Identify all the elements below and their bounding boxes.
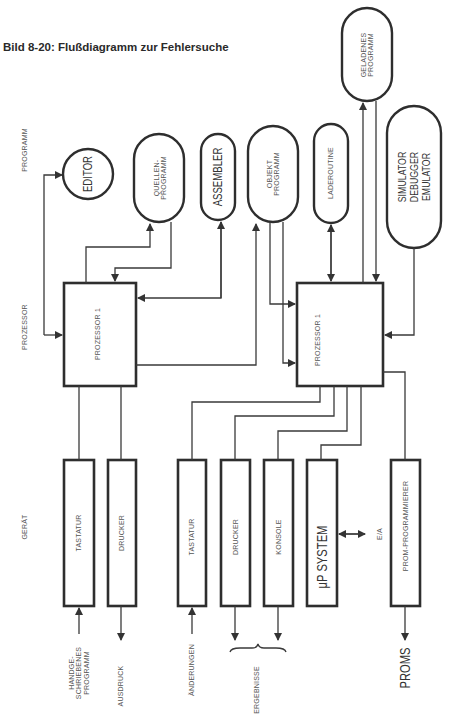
flow-diagram	[0, 0, 449, 716]
prozessor-right-label: PROZESSOR 1	[314, 314, 321, 366]
editor-label: EDITOR	[82, 156, 95, 192]
ergebnisse-label: ERGEBNISSE	[253, 666, 260, 714]
ergebnisse-brace	[230, 644, 286, 652]
objekt-programm-label: OBJEKT PROGRAMM	[266, 152, 281, 196]
level-label-processor: PROZESSOR	[21, 304, 28, 350]
drucker-1-label: DRUCKER	[118, 515, 125, 551]
geladenes-programm-label: GELADENES PROGRAMM	[360, 33, 375, 78]
prozessor-left-label: PROZESSOR 1	[94, 308, 101, 360]
handgeschriebenes-programm-label: HANDGE- SCHRIEBENES PROGRAMM	[68, 647, 90, 699]
tastatur-2-label: TASTATUR	[188, 519, 195, 556]
prozessor-right-box	[297, 283, 383, 386]
prom-programmierer-label: PROM-PROGRAMMIERER	[402, 481, 409, 571]
konsole-label: KONSOLE	[275, 519, 282, 554]
ea-label: E/A	[376, 528, 383, 540]
level-label-program: PROGRAMM	[21, 128, 28, 172]
proms-label: PROMS	[398, 647, 413, 688]
simulator-label: SIMULATOR DEBUGGER EMULATOR	[396, 152, 432, 203]
assembler-label: ASSEMBLER	[212, 148, 225, 207]
aenderungen-label: ÄNDERUNGEN	[188, 644, 195, 696]
quellen-programm-label: QUELLEN- PROGRAMM	[153, 156, 168, 200]
tastatur-1-label: TASTATUR	[75, 515, 82, 552]
ausdruck-label: AUSDRUCK	[117, 666, 124, 707]
drucker-2-label: DRUCKER	[232, 519, 239, 555]
laderoutine-label: LADEROUTINE	[327, 147, 334, 199]
mp-system-label: μP SYSTEM	[315, 526, 330, 589]
level-label-device: GERÄT	[21, 514, 28, 539]
